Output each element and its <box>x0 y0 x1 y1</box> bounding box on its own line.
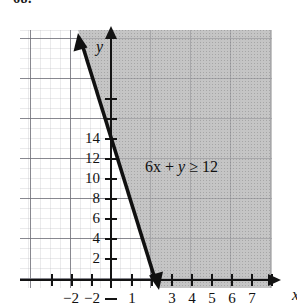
line-arrow-up-icon <box>74 33 88 52</box>
line-arrow-down-icon <box>149 272 163 291</box>
boundary-line <box>74 33 164 290</box>
boundary-line-layer <box>0 0 297 308</box>
figure-canvas: 68. <box>0 0 297 308</box>
